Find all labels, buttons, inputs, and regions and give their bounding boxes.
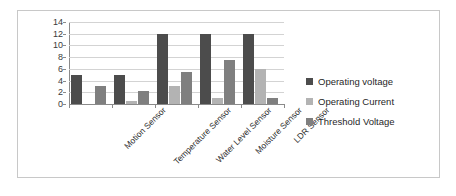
bar xyxy=(255,69,266,104)
y-axis-tick-labels: 02468101214 xyxy=(38,22,66,104)
bar xyxy=(169,86,180,104)
y-axis-tick-label: 10 xyxy=(53,41,63,50)
bar xyxy=(95,86,106,104)
legend-swatch-icon xyxy=(306,118,313,125)
legend-swatch-icon xyxy=(306,98,313,105)
bar xyxy=(243,34,254,104)
bar xyxy=(138,91,149,104)
legend-item[interactable]: Threshold Voltage xyxy=(306,111,436,131)
x-axis-category-label: Motion Sensor xyxy=(122,105,168,151)
bar-group xyxy=(155,22,198,104)
y-axis-tick-mark xyxy=(63,57,66,58)
y-axis-tick-label: 12 xyxy=(53,29,63,38)
plot-area xyxy=(69,22,284,104)
y-axis-tick-mark xyxy=(63,81,66,82)
bar-group xyxy=(241,22,284,104)
bar xyxy=(212,98,223,104)
bar xyxy=(181,72,192,104)
legend-item[interactable]: Operating Current xyxy=(306,91,436,111)
bar xyxy=(114,75,125,104)
bar xyxy=(267,98,278,104)
y-axis-tick-mark xyxy=(63,92,66,93)
bar xyxy=(71,75,82,104)
legend-label: Operating Current xyxy=(318,96,394,107)
bar xyxy=(224,60,235,104)
y-axis-tick-mark xyxy=(63,69,66,70)
legend-item[interactable]: Operating voltage xyxy=(306,71,436,91)
legend-label: Operating voltage xyxy=(318,76,393,87)
legend-swatch-icon xyxy=(306,78,313,85)
bar xyxy=(200,34,211,104)
bar xyxy=(157,34,168,104)
bar-group xyxy=(112,22,155,104)
y-axis-tick-mark xyxy=(63,45,66,46)
bar-group xyxy=(69,22,112,104)
legend-label: Threshold Voltage xyxy=(318,116,395,127)
y-axis-tick-label: 14 xyxy=(53,18,63,27)
bar xyxy=(126,101,137,104)
bar-group xyxy=(198,22,241,104)
y-axis-tick-mark xyxy=(63,22,66,23)
chart-figure: 02468101214 Motion SensorTemperature Sen… xyxy=(17,10,440,178)
chart-legend: Operating voltageOperating CurrentThresh… xyxy=(306,71,436,131)
y-axis-tick-mark xyxy=(63,104,66,105)
y-axis-tick-mark xyxy=(63,34,66,35)
x-axis-category-labels: Motion SensorTemperature SensorWater Lev… xyxy=(69,105,299,175)
